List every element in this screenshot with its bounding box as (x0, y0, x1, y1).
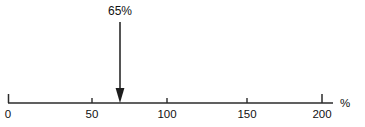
number-line-svg: 0 50 100 150 200 % 65% (0, 0, 365, 127)
number-line-figure: 0 50 100 150 200 % 65% (0, 0, 365, 127)
axis-tick-label-150: 150 (237, 108, 256, 120)
axis-tick-label-100: 100 (157, 108, 176, 120)
callout-arrow-head-icon (116, 88, 125, 103)
axis-unit-label: % (340, 97, 350, 109)
callout-label: 65% (108, 4, 132, 18)
axis-tick-label-200: 200 (312, 108, 331, 120)
axis-tick-label-50: 50 (86, 108, 99, 120)
axis-tick-label-0: 0 (5, 108, 11, 120)
